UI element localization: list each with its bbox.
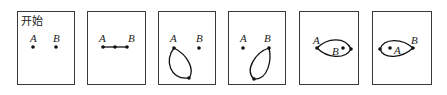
panel-2: AB xyxy=(88,12,146,85)
panel-frame xyxy=(88,12,146,85)
diagram-canvas: 开始ABABABABABAB xyxy=(0,0,447,95)
point-dot xyxy=(388,46,392,50)
point-label-b: B xyxy=(196,32,203,44)
point-label-a: A xyxy=(98,32,106,44)
point-label-b: B xyxy=(264,32,271,44)
panel-6: AB xyxy=(373,12,432,85)
point-dot xyxy=(349,47,353,51)
point-label-a: A xyxy=(393,44,401,56)
point-label-a: A xyxy=(169,32,177,44)
loop-sequence-diagram: 开始ABABABABABAB xyxy=(0,0,447,95)
point-dot xyxy=(54,45,58,49)
panel-5: AB xyxy=(300,12,359,85)
point-dot xyxy=(101,45,105,49)
point-dot xyxy=(241,46,245,50)
panel-frame xyxy=(159,12,216,85)
panel-1: 开始AB xyxy=(18,12,75,85)
point-label-b: B xyxy=(332,45,339,57)
point-label-b: B xyxy=(128,32,135,44)
panel-3: AB xyxy=(159,12,216,85)
point-dot xyxy=(125,45,129,49)
point-dot xyxy=(252,77,256,81)
panel-4: AB xyxy=(229,12,286,85)
point-dot xyxy=(378,47,382,51)
point-dot xyxy=(113,45,117,49)
point-label-a: A xyxy=(239,32,247,44)
point-label-b: B xyxy=(411,34,418,46)
point-dot xyxy=(187,76,191,80)
point-label-b: B xyxy=(53,32,60,44)
point-dot xyxy=(172,46,176,50)
point-dot xyxy=(411,46,415,50)
point-dot xyxy=(31,45,35,49)
point-dot xyxy=(341,46,345,50)
point-dot xyxy=(267,46,271,50)
point-dot xyxy=(197,46,201,50)
panel-frame xyxy=(229,12,286,85)
point-label-a: A xyxy=(29,32,37,44)
point-dot xyxy=(315,46,319,50)
panel-title: 开始 xyxy=(21,14,43,28)
point-label-a: A xyxy=(312,34,320,46)
